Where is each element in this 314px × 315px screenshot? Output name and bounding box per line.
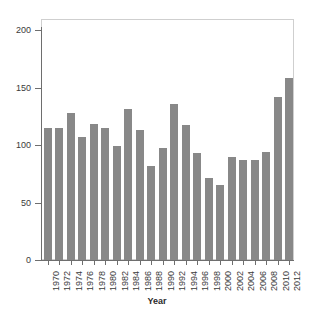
x-tick-label: 1984 [132, 271, 141, 291]
x-tick-mark [163, 260, 164, 265]
x-tick-mark [243, 260, 244, 265]
bar [159, 148, 167, 260]
x-tick-mark [266, 260, 267, 265]
bar [251, 160, 259, 260]
x-tick-label: 1978 [98, 271, 107, 291]
y-tick-label: 200 [16, 26, 31, 35]
bar-chart-figure: 050100150200 197019721974197619781980198… [0, 0, 314, 315]
x-tick-mark [151, 260, 152, 265]
bar [90, 124, 98, 260]
x-tick-label: 1994 [190, 271, 199, 291]
bar [262, 152, 270, 260]
x-tick-label: 1992 [178, 271, 187, 291]
bar [193, 153, 201, 260]
x-tick-mark [197, 260, 198, 265]
x-tick-label: 2004 [247, 271, 256, 291]
x-tick-mark [232, 260, 233, 265]
bar [239, 160, 247, 260]
x-tick-mark [82, 260, 83, 265]
bar [113, 146, 121, 260]
x-tick-mark [174, 260, 175, 265]
x-tick-mark [220, 260, 221, 265]
bar [274, 97, 282, 260]
y-tick-mark [35, 30, 41, 31]
y-tick-label: 0 [26, 256, 31, 265]
bar [124, 109, 132, 260]
x-tick-label: 2002 [236, 271, 245, 291]
x-axis-line [41, 260, 294, 261]
x-tick-mark [128, 260, 129, 265]
bar [170, 104, 178, 260]
x-axis-title: Year [0, 296, 314, 306]
x-tick-label: 1974 [75, 271, 84, 291]
bar [228, 157, 236, 261]
y-tick-label: 150 [16, 84, 31, 93]
bar [136, 130, 144, 260]
y-tick-mark [35, 260, 41, 261]
y-tick-mark [35, 145, 41, 146]
y-axis-line [41, 27, 42, 260]
bar [78, 137, 86, 260]
x-tick-label: 1988 [155, 271, 164, 291]
bar [285, 78, 293, 260]
x-tick-label: 2008 [270, 271, 279, 291]
x-tick-label: 1970 [52, 271, 61, 291]
x-tick-label: 2012 [293, 271, 302, 291]
x-tick-mark [59, 260, 60, 265]
x-tick-label: 1998 [213, 271, 222, 291]
x-tick-mark [289, 260, 290, 265]
x-tick-label: 1982 [121, 271, 130, 291]
x-tick-mark [209, 260, 210, 265]
x-tick-mark [71, 260, 72, 265]
x-tick-mark [278, 260, 279, 265]
x-tick-label: 1980 [109, 271, 118, 291]
x-tick-mark [105, 260, 106, 265]
x-tick-label: 1986 [144, 271, 153, 291]
x-tick-label: 1972 [63, 271, 72, 291]
bar [182, 125, 190, 260]
x-tick-label: 1996 [201, 271, 210, 291]
x-tick-label: 2000 [224, 271, 233, 291]
bar [44, 128, 52, 260]
y-tick-mark [35, 203, 41, 204]
x-tick-mark [117, 260, 118, 265]
y-tick-label: 100 [16, 141, 31, 150]
x-tick-mark [186, 260, 187, 265]
x-tick-mark [48, 260, 49, 265]
bar [55, 128, 63, 260]
bar [67, 113, 75, 260]
x-tick-mark [255, 260, 256, 265]
x-tick-label: 1990 [167, 271, 176, 291]
x-tick-label: 1976 [86, 271, 95, 291]
x-tick-mark [94, 260, 95, 265]
y-tick-label: 50 [21, 199, 31, 208]
y-tick-mark [35, 88, 41, 89]
bar [147, 166, 155, 260]
x-tick-mark [140, 260, 141, 265]
x-tick-label: 2010 [282, 271, 291, 291]
bar [101, 128, 109, 260]
bar [216, 185, 224, 260]
x-tick-label: 2006 [259, 271, 268, 291]
bar [205, 178, 213, 260]
